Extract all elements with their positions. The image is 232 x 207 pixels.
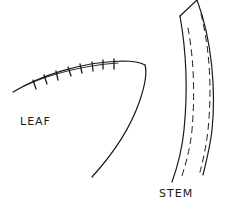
stem-left-edge	[172, 16, 186, 182]
leaf-outer-curve	[92, 65, 146, 177]
leaf-top-edge	[13, 61, 145, 92]
leaf-stem-sketch	[0, 0, 232, 207]
stem-label: STEM	[159, 187, 193, 200]
stem-inner-dashed-left	[182, 28, 194, 176]
stem-drawing	[172, 0, 213, 182]
leaf-label: LEAF	[20, 115, 51, 128]
leaf-hatch-marks	[33, 59, 114, 89]
stem-top-cap	[180, 0, 197, 16]
